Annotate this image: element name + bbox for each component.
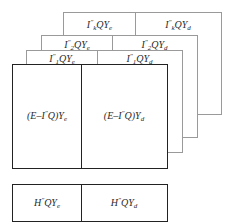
layer-k-right-label: I"kQYd	[135, 19, 221, 31]
bottom-right-label: H"QYd	[82, 197, 166, 209]
bottom-block: H"QYe H"QYd	[12, 184, 168, 222]
main-left-label: (E–I"Q)Ye	[13, 110, 81, 122]
bottom-left-label: H"QYe	[13, 197, 81, 209]
layer-k-left-label: I"kQYe	[64, 19, 135, 31]
main-block: (E–I"Q)Ye (E–I"Q)Yd	[12, 64, 168, 169]
main-right-label: (E–I"Q)Yd	[82, 110, 166, 122]
